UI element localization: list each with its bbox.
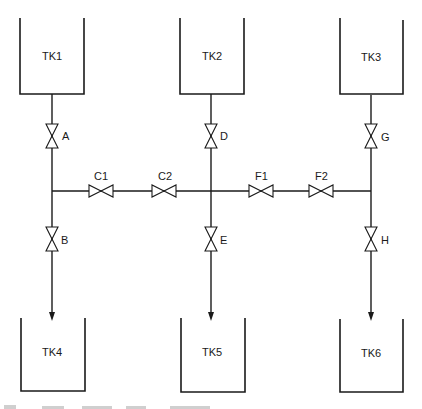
valve-icon	[46, 136, 58, 148]
valve-icon	[309, 185, 321, 197]
valve-icon	[249, 185, 261, 197]
tank-tk1: TK1	[20, 18, 84, 94]
valve-label: C2	[158, 170, 172, 182]
valve-icon	[321, 185, 333, 197]
valve-icon	[46, 239, 58, 251]
valve-icon	[164, 185, 176, 197]
valve-f2[interactable]: F2	[309, 170, 333, 197]
tank-tk3: TK3	[340, 18, 403, 94]
valve-icon	[152, 185, 164, 197]
valve-icon	[365, 124, 377, 136]
valve-c1[interactable]: C1	[89, 170, 113, 197]
valve-label: E	[220, 234, 227, 246]
arrow-down-icon	[208, 312, 214, 321]
tank-tk6: TK6	[340, 319, 403, 392]
valve-label: C1	[94, 170, 108, 182]
cropped-caption-remnant	[4, 405, 210, 409]
valve-icon	[261, 185, 273, 197]
valve-icon	[205, 136, 217, 148]
valve-label: F1	[255, 170, 268, 182]
valve-icon	[205, 239, 217, 251]
tank-label: TK1	[42, 50, 62, 62]
valve-b[interactable]: B	[46, 227, 68, 251]
valve-icon	[365, 239, 377, 251]
tank-label: TK5	[202, 346, 222, 358]
valve-icon	[46, 227, 58, 239]
valve-label: A	[62, 130, 70, 142]
tank-tk5: TK5	[181, 318, 245, 392]
valve-label: F2	[315, 170, 328, 182]
valve-icon	[365, 227, 377, 239]
tank-label: TK3	[361, 51, 381, 63]
valve-icon	[365, 136, 377, 148]
tank-tk4: TK4	[21, 318, 85, 391]
valve-e[interactable]: E	[205, 227, 227, 251]
tank-label: TK4	[42, 346, 62, 358]
valve-icon	[205, 124, 217, 136]
valve-h[interactable]: H	[365, 227, 389, 251]
valve-c2[interactable]: C2	[152, 170, 176, 197]
arrow-down-icon	[368, 312, 374, 321]
valve-icon	[101, 185, 113, 197]
valve-d[interactable]: D	[205, 124, 228, 148]
valve-g[interactable]: G	[365, 124, 390, 148]
flow-arrow-icons	[49, 312, 374, 321]
valve-f1[interactable]: F1	[249, 170, 273, 197]
tank-label: TK6	[361, 347, 381, 359]
valve-icon	[205, 227, 217, 239]
valve-label: G	[381, 131, 390, 143]
tank-tk2: TK2	[180, 18, 244, 94]
valve-icon	[89, 185, 101, 197]
valve-label: D	[220, 130, 228, 142]
valve-icon	[46, 124, 58, 136]
valve-label: B	[61, 234, 68, 246]
piping-diagram: TK1 TK2 TK3 TK4 TK5 TK6 A	[0, 0, 422, 409]
arrow-down-icon	[49, 312, 55, 321]
valve-a[interactable]: A	[46, 124, 70, 148]
tank-label: TK2	[202, 50, 222, 62]
valve-label: H	[381, 234, 389, 246]
